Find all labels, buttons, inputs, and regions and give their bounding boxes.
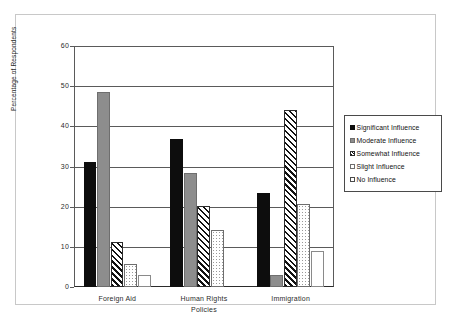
bar (184, 173, 197, 287)
x-tick-label: Immigration (247, 293, 334, 304)
bar (270, 275, 283, 287)
bar (111, 242, 124, 287)
y-tick-mark (70, 167, 74, 168)
y-tick-mark (70, 287, 74, 288)
y-tick-label: 60 (35, 42, 69, 49)
bar (297, 204, 310, 287)
bar-group (170, 46, 238, 287)
legend-item[interactable]: No Influence (350, 173, 437, 186)
legend-label: Significant Influence (357, 124, 420, 131)
y-tick-mark (70, 207, 74, 208)
bar-group (257, 46, 325, 287)
legend-label: Slight Influence (357, 163, 405, 170)
bar (170, 139, 183, 287)
bar (311, 251, 324, 287)
y-tick-label: 20 (35, 203, 69, 210)
x-tick-label-line: Policies (161, 304, 248, 315)
bar-group (84, 46, 152, 287)
legend: Significant InfluenceModerate InfluenceS… (344, 115, 442, 192)
bar (284, 110, 297, 287)
x-tick-label: Foreign Aid (74, 293, 161, 304)
legend-swatch-icon (350, 164, 355, 169)
y-tick-mark (70, 126, 74, 127)
x-tick-label-line: Immigration (247, 293, 334, 304)
bar (197, 206, 210, 287)
legend-label: Moderate Influence (357, 137, 417, 144)
y-tick-label: 0 (35, 283, 69, 290)
legend-item[interactable]: Slight Influence (350, 160, 437, 173)
y-tick-label: 50 (35, 82, 69, 89)
legend-swatch-icon (350, 138, 355, 143)
y-axis-label: Percentage of Respondents (10, 0, 17, 111)
legend-label: No Influence (357, 176, 396, 183)
bar (97, 92, 110, 287)
y-tick-label: 30 (35, 163, 69, 170)
x-tick-label-line: Foreign Aid (74, 293, 161, 304)
y-tick-mark (70, 247, 74, 248)
legend-swatch-icon (350, 151, 355, 156)
y-tick-mark (70, 86, 74, 87)
bar (138, 275, 151, 287)
legend-item[interactable]: Moderate Influence (350, 134, 437, 147)
legend-swatch-icon (350, 177, 355, 182)
chart-frame: 0102030405060 Percentage of Respondents … (15, 14, 436, 305)
y-tick-mark (70, 46, 74, 47)
legend-item[interactable]: Significant Influence (350, 121, 437, 134)
legend-swatch-icon (350, 125, 355, 130)
x-tick-label: Human RightsPolicies (161, 293, 248, 315)
bar (257, 193, 270, 287)
bar (84, 162, 97, 287)
x-tick-label-line: Human Rights (161, 293, 248, 304)
bar (124, 264, 137, 287)
bar (211, 230, 224, 287)
y-tick-label: 40 (35, 122, 69, 129)
y-tick-label: 10 (35, 243, 69, 250)
legend-item[interactable]: Somewhat Influence (350, 147, 437, 160)
legend-label: Somewhat Influence (357, 150, 420, 157)
plot-area (74, 46, 334, 287)
